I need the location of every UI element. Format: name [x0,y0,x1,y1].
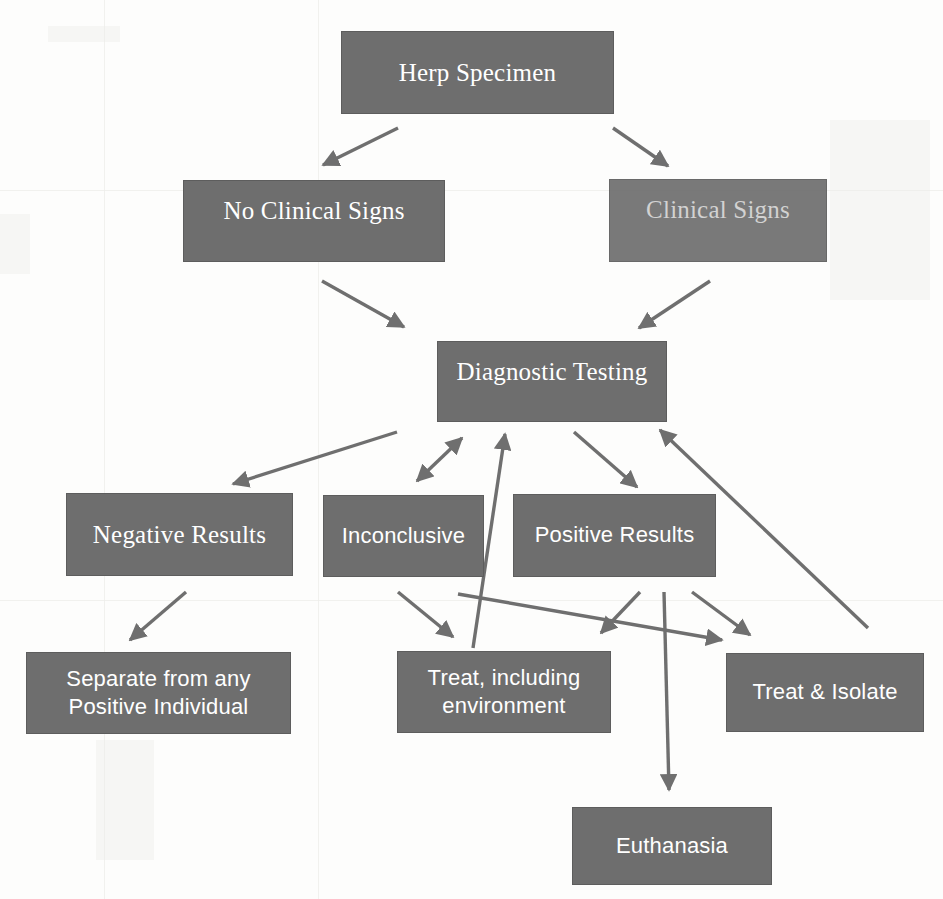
node-label: Positive Results [529,521,701,549]
edge-positive-to-euthanasia [664,592,669,790]
node-label: Herp Specimen [393,57,562,89]
edge-positive-to-treat-isolate [692,592,750,635]
edge-layer [0,0,943,899]
node-label: Diagnostic Testing [451,356,654,388]
scan-artifact [0,600,943,601]
edge-herp-to-signs [613,128,668,166]
scan-artifact [0,214,30,274]
edge-no-signs-to-testing [322,281,404,327]
node-treat-including-environment[interactable]: Treat, including environment [397,651,611,733]
node-label: Separate from any Positive Individual [60,665,256,721]
node-label: Inconclusive [336,522,471,550]
scan-artifact [104,0,105,899]
node-treat-and-isolate[interactable]: Treat & Isolate [726,653,924,732]
edge-positive-to-treat-env [601,592,640,633]
node-inconclusive[interactable]: Inconclusive [323,495,484,577]
node-herp-specimen[interactable]: Herp Specimen [341,31,614,114]
node-label: No Clinical Signs [217,195,410,227]
edge-negative-to-separate [130,592,186,640]
node-euthanasia[interactable]: Euthanasia [572,807,772,885]
scan-artifact [318,0,319,899]
node-clinical-signs[interactable]: Clinical Signs [609,179,827,262]
node-no-clinical-signs[interactable]: No Clinical Signs [183,180,445,262]
node-label: Negative Results [87,519,272,551]
edge-inconclusive-to-treat-isolate [458,594,722,640]
edge-testing-inconclusive-bidirectional [417,438,462,481]
node-label: Clinical Signs [640,194,796,226]
scan-artifact [48,26,120,42]
node-separate-from-positive[interactable]: Separate from any Positive Individual [26,652,291,734]
edge-inconclusive-to-treat-env [398,592,453,637]
node-label: Treat & Isolate [746,678,903,706]
flowchart-canvas: Herp Specimen No Clinical Signs Clinical… [0,0,943,899]
node-label: Treat, including environment [422,664,587,720]
node-diagnostic-testing[interactable]: Diagnostic Testing [437,341,667,422]
node-label: Euthanasia [610,832,734,860]
edge-herp-to-no-signs [323,128,398,165]
scan-artifact [830,120,930,300]
edge-signs-to-testing [639,281,710,328]
scan-artifact [96,740,154,860]
edge-testing-to-negative [233,432,397,484]
edge-testing-to-positive [574,432,637,487]
node-negative-results[interactable]: Negative Results [66,493,293,576]
node-positive-results[interactable]: Positive Results [513,494,716,577]
